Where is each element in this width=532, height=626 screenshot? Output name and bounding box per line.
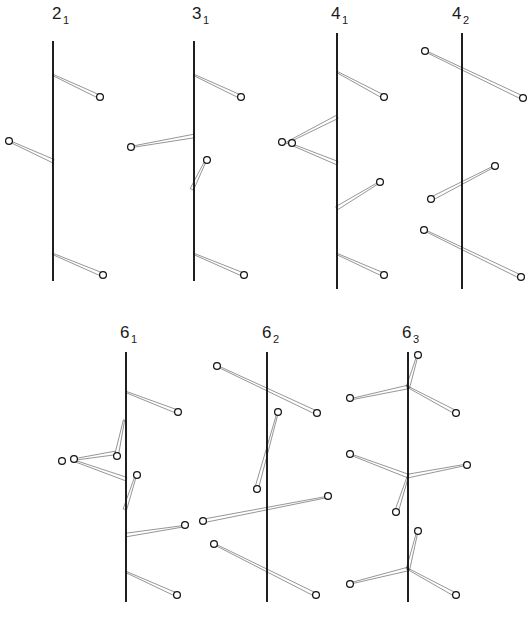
diagram-label-d62: 62 <box>262 323 279 345</box>
diagram-label-d41: 41 <box>331 4 348 26</box>
branch-lower-crossing-d62 <box>214 543 317 596</box>
label-main-d21: 2 <box>52 4 61 23</box>
branch-lower-right-d21 <box>53 253 104 276</box>
diagram-d31: 31 <box>128 4 248 281</box>
branch-lower-crossing-d42 <box>424 229 522 278</box>
node-n2-down-d63 <box>393 509 400 516</box>
node-lower-left-d42 <box>421 227 428 234</box>
node-lower-left-d62 <box>211 541 218 548</box>
node-spike-up-d61 <box>114 453 121 460</box>
branch-group-d42 <box>424 50 524 278</box>
branch-mid-crossing-d62 <box>203 496 327 522</box>
branch-group-d41 <box>286 71 385 276</box>
diagram-d61: 61 <box>59 323 189 602</box>
label-main-d31: 3 <box>192 4 201 23</box>
node-spike-down-d61 <box>134 472 141 479</box>
label-subscript-d21: 1 <box>63 14 69 26</box>
node-mid-right-d42 <box>492 163 499 170</box>
node-spike-top-d62 <box>275 409 282 416</box>
node-n3-left-d63 <box>347 581 354 588</box>
node-triangle-apex-inner-d61 <box>71 456 78 463</box>
branch-triangle-lower-d61 <box>72 459 127 480</box>
node-n2-right-d63 <box>464 462 471 469</box>
figure-root: 21314142616263 <box>0 0 532 626</box>
node-upper-right-d31 <box>238 94 245 101</box>
node-triangle-apex-outer-d61 <box>59 458 66 465</box>
branch-lower-right-d31 <box>194 253 245 276</box>
label-main-d63: 6 <box>402 323 411 342</box>
label-main-d61: 6 <box>120 323 129 342</box>
label-main-d42: 4 <box>452 4 461 23</box>
node-short-right-d31 <box>204 157 211 164</box>
branch-upper-right-d31 <box>194 74 242 98</box>
node-triangle-apex-outer-d41 <box>279 139 286 146</box>
branch-n2-right-d63 <box>408 464 465 477</box>
diagram-label-d21: 21 <box>52 4 69 26</box>
branch-lower-right-d61 <box>126 571 178 596</box>
node-middle-left-d31 <box>128 144 135 151</box>
label-subscript-d31: 1 <box>203 14 209 26</box>
node-upper-right-d21 <box>97 94 104 101</box>
diagram-d62: 62 <box>200 323 332 602</box>
node-n3-up-d63 <box>415 528 422 535</box>
branch-group-d31 <box>131 74 245 276</box>
branch-n3-right-d63 <box>408 568 455 595</box>
node-n2-left-d63 <box>347 451 354 458</box>
node-n3-right-d63 <box>453 592 460 599</box>
branch-upper-right-d41 <box>337 71 385 98</box>
branch-upper-right-d61 <box>126 391 179 413</box>
node-lower-right-d41 <box>381 272 388 279</box>
branch-middle-left-d31 <box>131 134 194 147</box>
screw-axis-figure: 21314142616263 <box>0 0 532 626</box>
node-long-right-d61 <box>182 522 189 529</box>
node-triangle-apex-inner-d41 <box>289 140 296 147</box>
branch-spike-up-d61 <box>115 420 124 454</box>
node-mid-right-d41 <box>377 179 384 186</box>
branch-top-crossing-d42 <box>425 50 524 99</box>
branch-n3-left-d63 <box>352 567 409 583</box>
branch-n2-left-d63 <box>352 454 409 477</box>
diagram-d41: 41 <box>279 4 388 289</box>
branch-upper-right-d21 <box>53 74 101 98</box>
node-mid-right-d62 <box>325 493 332 500</box>
branch-n1-left-d63 <box>352 385 409 399</box>
branch-short-right-d31 <box>190 160 206 190</box>
node-mid-left-d42 <box>428 196 435 203</box>
label-main-d41: 4 <box>331 4 340 23</box>
node-mid-left-d62 <box>200 518 207 525</box>
label-subscript-d41: 1 <box>342 14 348 26</box>
label-main-d62: 6 <box>262 323 271 342</box>
node-top-right-d42 <box>520 95 527 102</box>
node-upper-right-d61 <box>175 409 182 416</box>
node-lower-right-d61 <box>174 592 181 599</box>
node-n1-up-d63 <box>415 352 422 359</box>
node-n1-left-d63 <box>347 395 354 402</box>
node-middle-left-d21 <box>6 138 13 145</box>
diagram-d63: 63 <box>347 323 471 602</box>
node-n1-right-d63 <box>453 410 460 417</box>
node-lower-right-d62 <box>313 592 320 599</box>
diagram-label-d42: 42 <box>452 4 469 26</box>
diagram-d42: 42 <box>421 4 527 289</box>
node-top-left-d42 <box>422 48 429 55</box>
branch-long-right-d61 <box>126 525 185 536</box>
diagram-label-d61: 61 <box>120 323 137 345</box>
branch-n1-right-d63 <box>408 386 456 413</box>
branch-group-d62 <box>203 365 327 596</box>
node-lower-right-d42 <box>518 274 525 281</box>
branch-lower-right-d41 <box>337 253 385 276</box>
label-subscript-d63: 3 <box>413 333 419 345</box>
branch-mid-right-d41 <box>336 181 380 209</box>
branch-group-d61 <box>71 391 185 596</box>
node-top-left-d62 <box>214 363 221 370</box>
node-lower-right-d21 <box>100 272 107 279</box>
label-subscript-d61: 1 <box>131 333 137 345</box>
label-subscript-d62: 2 <box>273 333 279 345</box>
branch-group-d21 <box>9 74 104 276</box>
node-top-right-d62 <box>314 410 321 417</box>
diagram-label-d31: 31 <box>192 4 209 26</box>
branch-middle-left-d21 <box>9 140 54 162</box>
branch-triangle-lower-d41 <box>288 142 338 164</box>
node-upper-right-d41 <box>381 94 388 101</box>
branch-n2-down-d63 <box>395 476 408 511</box>
